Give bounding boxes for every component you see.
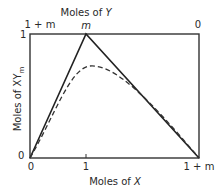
y-axis-title: Moles of XYm	[13, 57, 27, 141]
top-axis-title: Moles of Y	[61, 8, 112, 18]
top-tick-left: 1 + m	[25, 20, 56, 30]
plot-frame	[30, 34, 199, 158]
top-tick-right: 0	[195, 20, 201, 30]
top-tick-mid: m	[81, 21, 91, 31]
solid-series-line	[30, 34, 199, 158]
bottom-tick-left: 0	[28, 162, 34, 172]
x-axis-title: Moles of X	[89, 177, 141, 187]
y-tick-bottom: 0	[18, 151, 24, 161]
y-tick-top: 1	[20, 30, 26, 40]
dashed-series-line	[30, 66, 199, 158]
bottom-tick-mid: 1	[83, 162, 89, 172]
bottom-tick-right: 1 + m	[184, 162, 215, 172]
